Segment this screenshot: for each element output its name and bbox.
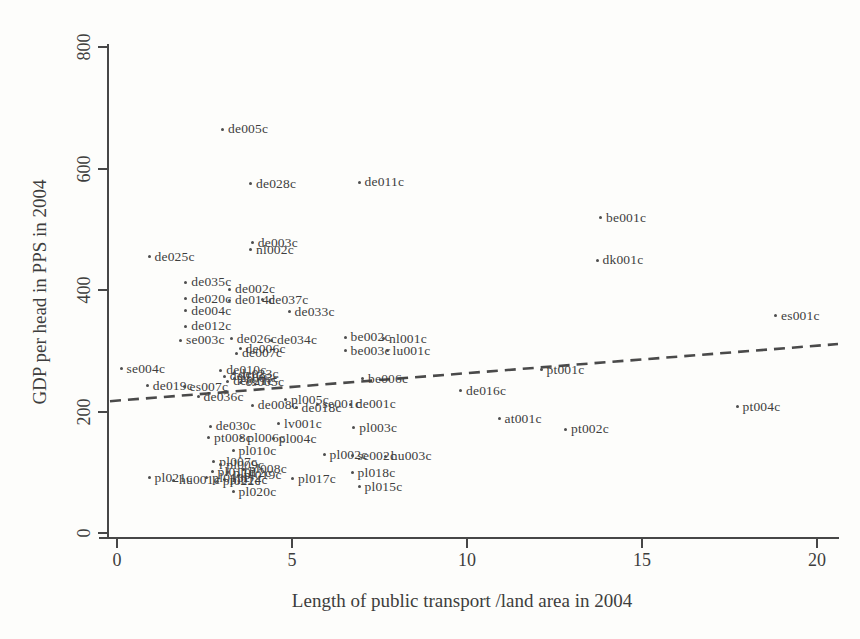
y-tick-label: 400 (74, 277, 95, 304)
y-tick-label: 200 (74, 398, 95, 425)
data-point-de001c: de001c (349, 396, 396, 412)
point-label: nl002c (256, 242, 294, 258)
marker-dot-icon (384, 455, 387, 458)
marker-dot-icon (540, 368, 543, 371)
data-point-es005c: es005c (239, 374, 285, 390)
data-point-de028c: de028c (249, 176, 296, 192)
x-axis-title: Length of public transport /land area in… (292, 590, 632, 612)
data-point-pl003c: pl003c (352, 420, 397, 436)
x-tick-label: 0 (113, 550, 122, 571)
point-label: de016c (466, 383, 506, 399)
point-label: se004c (127, 361, 166, 377)
y-tick-mark (98, 532, 107, 534)
marker-dot-icon (564, 428, 567, 431)
x-tick-mark (291, 539, 293, 548)
marker-dot-icon (277, 422, 280, 425)
point-label: de004c (191, 303, 231, 319)
data-point-pl020c: pl020c (232, 484, 277, 500)
marker-dot-icon (249, 182, 252, 185)
marker-dot-icon (183, 385, 186, 388)
marker-dot-icon (197, 395, 200, 398)
point-label: pl004c (279, 431, 317, 447)
data-point-de025c: de025c (148, 249, 195, 265)
point-label: de033c (295, 304, 335, 320)
point-label: se003c (186, 332, 225, 348)
data-point-at001c: at001c (498, 411, 542, 427)
marker-dot-icon (120, 367, 123, 370)
marker-dot-icon (239, 381, 242, 384)
marker-dot-icon (172, 479, 175, 482)
point-label: hu001c (179, 472, 220, 488)
marker-dot-icon (344, 349, 347, 352)
data-point-hu001c: hu001c (172, 472, 220, 488)
marker-dot-icon (184, 281, 187, 284)
marker-dot-icon (382, 337, 385, 340)
point-label: de005c (228, 121, 268, 137)
y-tick-mark (98, 46, 107, 48)
point-label: de001c (356, 396, 396, 412)
y-tick-label: 600 (74, 155, 95, 182)
marker-dot-icon (596, 259, 599, 262)
marker-dot-icon (599, 216, 602, 219)
data-point-pt001c: pt001c (540, 362, 585, 378)
marker-dot-icon (361, 377, 364, 380)
point-label: de036c (204, 389, 244, 405)
x-axis (99, 537, 839, 539)
x-tick-mark (466, 539, 468, 548)
point-label: dk001c (603, 252, 644, 268)
marker-dot-icon (148, 255, 151, 258)
x-tick-mark (816, 539, 818, 548)
y-tick-mark (98, 411, 107, 413)
y-axis-title: GDP per head in PPS in 2004 (29, 179, 51, 404)
data-point-dk001c: dk001c (596, 252, 644, 268)
marker-dot-icon (148, 476, 151, 479)
point-label: pl003c (359, 420, 397, 436)
data-point-hu003c: hu003c (384, 448, 432, 464)
y-axis (107, 44, 109, 539)
data-point-de007c: de007c (235, 345, 282, 361)
marker-dot-icon (184, 309, 187, 312)
point-label: lu001c (393, 343, 431, 359)
y-tick-mark (98, 168, 107, 170)
marker-dot-icon (774, 314, 777, 317)
data-point-be003c: be003c (344, 343, 391, 359)
marker-dot-icon (261, 298, 264, 301)
data-point-de036c: de036c (197, 389, 244, 405)
marker-dot-icon (230, 337, 233, 340)
x-tick-label: 15 (633, 550, 651, 571)
x-tick-label: 5 (288, 550, 297, 571)
data-point-pt002c: pt002c (564, 421, 609, 437)
point-label: pl015c (365, 479, 403, 495)
marker-dot-icon (349, 403, 352, 406)
data-point-pl017c: pl017c (291, 471, 336, 487)
data-point-se003c: se003c (179, 332, 225, 348)
point-label: pt001c (547, 362, 585, 378)
data-point-de005c: de005c (221, 121, 268, 137)
marker-dot-icon (288, 310, 291, 313)
marker-dot-icon (179, 339, 182, 342)
point-label: de035c (191, 274, 231, 290)
marker-dot-icon (232, 490, 235, 493)
data-point-be001c: be001c (599, 210, 646, 226)
y-tick-label: 800 (74, 34, 95, 61)
point-label: es005c (246, 374, 285, 390)
data-point-es001c: es001c (774, 308, 820, 324)
marker-dot-icon (344, 336, 347, 339)
point-label: es001c (781, 308, 820, 324)
data-point-se004c: se004c (120, 361, 166, 377)
point-label: at001c (505, 411, 542, 427)
point-label: be006c (368, 371, 408, 387)
x-tick-mark (116, 539, 118, 548)
data-point-de016c: de016c (459, 383, 506, 399)
point-label: be001c (606, 210, 646, 226)
marker-dot-icon (459, 389, 462, 392)
marker-dot-icon (251, 404, 254, 407)
point-label: pl020c (239, 484, 277, 500)
marker-dot-icon (351, 471, 354, 474)
marker-dot-icon (184, 297, 187, 300)
data-point-lu001c: lu001c (386, 343, 431, 359)
marker-dot-icon (358, 485, 361, 488)
marker-dot-icon (358, 181, 361, 184)
point-label: de007c (242, 345, 282, 361)
data-point-nl002c: nl002c (249, 242, 294, 258)
